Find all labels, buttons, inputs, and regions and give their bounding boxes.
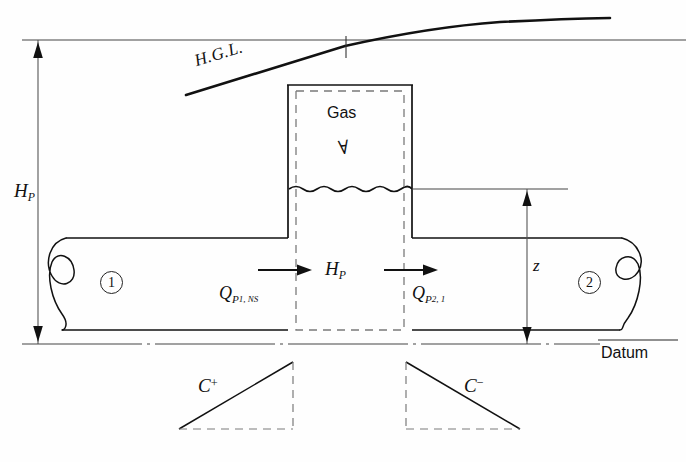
figure-canvas: H.G.L. HP Gas ∀ HP QP1, NS QP2, 1 z Datu… [0,0,686,462]
hgl-line [186,18,610,95]
z-dimension-arrow-top [522,191,531,206]
section-marker-two-text: 2 [586,275,593,291]
characteristic-negative-symbol: C [464,375,477,396]
flow-in-subscript-tail: , NS [243,294,258,304]
flow-out-subscript-p: P [425,293,432,305]
control-volume-dashed-boundary [296,91,404,330]
flow-in-symbol: Q [219,283,232,303]
gas-label: Gas [327,104,356,122]
water-surface-wavy-line [289,187,412,192]
head-hp-left-subscript: P [28,191,35,204]
head-hp-center-subscript: P [339,269,346,282]
datum-label: Datum [601,344,648,362]
flow-in-subscript-p: P [232,293,239,305]
head-hp-center-symbol: H [325,258,339,279]
characteristic-negative-label: C− [464,375,484,397]
flow-in-label: QP1, NS [219,283,258,305]
head-hp-left-label: HP [14,180,35,205]
flow-out-arrow-head [423,265,438,276]
characteristic-positive-superscript: + [211,376,218,390]
hp-dimension-arrow-bottom [33,326,43,342]
section-marker-one: 1 [100,271,123,294]
characteristic-negative-superscript: − [477,376,484,390]
section-marker-two: 2 [578,271,601,294]
diagram-vector-layer [0,0,686,462]
flow-out-label: QP2, 1 [412,283,445,305]
elevation-z-label: z [533,256,540,276]
flow-in-arrow-head [297,265,312,276]
characteristic-positive-label: C+ [198,375,218,397]
head-hp-left-symbol: H [14,180,28,201]
flow-out-subscript-tail: , 1 [436,294,445,304]
pipe-right-break-symbol [616,238,641,330]
c-positive-hypotenuse [179,362,293,429]
z-dimension-arrow-bottom [522,327,531,342]
characteristic-positive-symbol: C [198,375,211,396]
c-negative-hypotenuse [406,362,520,429]
hp-dimension-arrow-top [33,42,43,58]
pipe-left-break-symbol [48,238,74,330]
flow-out-symbol: Q [412,283,425,303]
section-marker-one-text: 1 [108,275,115,291]
head-hp-center-label: HP [325,258,346,283]
